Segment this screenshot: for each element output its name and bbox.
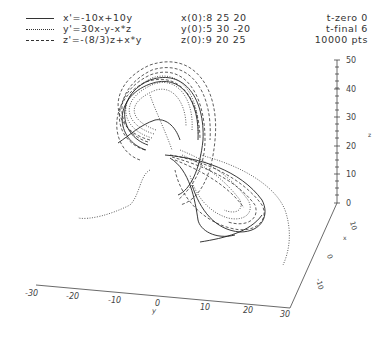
x-tick-10: 10 <box>348 220 358 231</box>
x-axis-label: x <box>343 234 347 241</box>
z-tick-50: 50 <box>346 56 356 65</box>
y-tick-20: 20 <box>243 306 253 315</box>
trajectory-dotted <box>78 76 289 265</box>
x-axis-labels: 10 0 -10 x <box>314 220 358 290</box>
z-axis <box>334 60 340 203</box>
z-tick-30: 30 <box>346 113 356 122</box>
z-tick-20: 20 <box>346 142 356 151</box>
y-axis-label: y <box>151 307 157 315</box>
y-axis-labels: -30 -20 -10 0 10 20 30 y <box>25 289 290 319</box>
z-tick-40: 40 <box>346 85 356 94</box>
y-tick-30: 30 <box>280 310 290 319</box>
plot-area: 50 40 30 20 10 0 z 10 0 -10 x -30 -20 -1… <box>0 0 383 338</box>
x-tick-0: 0 <box>325 253 334 259</box>
z-tick-0: 0 <box>346 199 351 208</box>
z-tick-10: 10 <box>346 170 356 179</box>
z-axis-labels: 50 40 30 20 10 0 z <box>346 56 371 208</box>
z-axis-label: z <box>368 131 371 138</box>
y-tick-10: 10 <box>200 303 210 312</box>
x-tick-minus10: -10 <box>314 277 325 290</box>
y-tick-minus30: -30 <box>25 289 38 298</box>
y-tick-minus20: -20 <box>66 292 79 301</box>
y-tick-minus10: -10 <box>108 296 121 305</box>
